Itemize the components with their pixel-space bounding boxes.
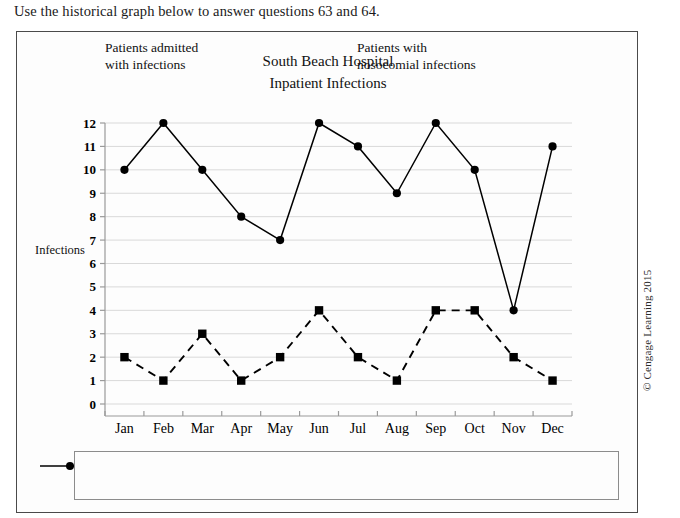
svg-text:Aug: Aug [385, 421, 409, 436]
svg-text:9: 9 [90, 186, 97, 201]
svg-text:Nov: Nov [502, 421, 526, 436]
series-layer [120, 119, 556, 385]
svg-text:12: 12 [83, 116, 96, 131]
svg-text:2: 2 [90, 350, 97, 365]
legend-entry-nosocomial: Patients with nosocomial infections [357, 40, 476, 73]
svg-text:6: 6 [90, 256, 97, 271]
svg-text:Jun: Jun [309, 421, 328, 436]
svg-text:7: 7 [90, 233, 97, 248]
y-axis-title: Infections [35, 243, 85, 258]
svg-text:10: 10 [83, 162, 96, 177]
question-prompt: Use the historical graph below to answer… [14, 3, 380, 20]
legend-entry-admitted: Patients admitted with infections [105, 40, 198, 73]
svg-text:Oct: Oct [465, 421, 485, 436]
svg-text:Feb: Feb [153, 421, 174, 436]
svg-text:Jul: Jul [350, 421, 366, 436]
legend-box [74, 451, 619, 500]
svg-text:5: 5 [90, 279, 97, 294]
svg-text:May: May [267, 421, 293, 436]
svg-text:1: 1 [90, 373, 97, 388]
svg-text:11: 11 [84, 139, 96, 154]
figure-page: Use the historical graph below to answer… [0, 0, 680, 518]
copyright-notice: © Cengage Learning 2015 [641, 270, 653, 391]
gridlines [105, 123, 572, 404]
legend-label-admitted-line-1: Patients admitted [105, 40, 198, 57]
svg-text:Mar: Mar [191, 421, 215, 436]
svg-text:Apr: Apr [230, 421, 252, 436]
y-axis [100, 123, 105, 416]
svg-text:Dec: Dec [541, 421, 564, 436]
x-axis [105, 411, 572, 416]
plot-area: 0123456789101112 JanFebMarAprMayJunJulAu… [17, 32, 639, 514]
line-chart-svg: 0123456789101112 JanFebMarAprMayJunJulAu… [17, 32, 639, 514]
svg-text:Jan: Jan [115, 421, 134, 436]
svg-text:0: 0 [90, 397, 97, 412]
legend-label-nosocomial-line-2: nosocomial infections [357, 57, 476, 74]
y-tick-labels: 0123456789101112 [83, 116, 97, 412]
legend-label-admitted-line-2: with infections [105, 57, 198, 74]
legend-label-nosocomial-line-1: Patients with [357, 40, 476, 57]
svg-text:4: 4 [90, 303, 97, 318]
svg-text:3: 3 [90, 326, 97, 341]
svg-text:Sep: Sep [425, 421, 446, 436]
x-tick-labels: JanFebMarAprMayJunJulAugSepOctNovDec [115, 421, 564, 436]
figure-frame: South Beach Hospital Inpatient Infection… [16, 31, 638, 513]
svg-text:8: 8 [90, 209, 97, 224]
